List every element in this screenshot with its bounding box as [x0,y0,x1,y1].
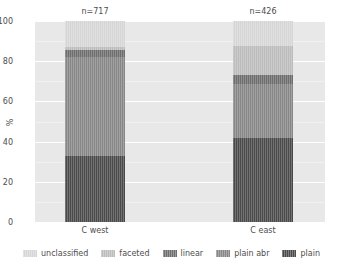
legend-item-linear[interactable]: linear [163,249,204,258]
bar-segment-plain[interactable] [233,138,293,222]
bar-c-east[interactable] [233,21,293,222]
legend-swatch [216,250,230,257]
y-tick-label: 80 [0,57,13,66]
annotation-n-east: n=426 [233,7,293,16]
x-tick-label-c-east: C east [233,226,293,235]
plot-area [35,21,325,222]
bar-segment-faceted[interactable] [65,47,125,50]
y-axis-label: % [6,119,15,127]
legend-label: plain [300,249,320,258]
bar-segment-plain-abr[interactable] [233,84,293,137]
bar-segment-unclassified[interactable] [233,21,293,46]
legend-swatch [23,250,37,257]
y-tick-label: 60 [0,97,13,106]
bar-segment-faceted[interactable] [233,46,293,75]
legend-swatch [101,250,115,257]
legend: unclassifiedfacetedlinearplain abrplain [0,246,343,260]
y-tick-label: 20 [0,177,13,186]
legend-item-faceted[interactable]: faceted [101,249,149,258]
annotation-n-west: n=717 [65,7,125,16]
y-tick-label: 100 [0,17,13,26]
bar-segment-linear[interactable] [233,75,293,84]
legend-item-plain[interactable]: plain [282,249,320,258]
legend-swatch [163,250,177,257]
bar-segment-plain[interactable] [65,156,125,222]
bar-segment-unclassified[interactable] [65,21,125,47]
legend-label: linear [181,249,204,258]
legend-item-plain-abr[interactable]: plain abr [216,249,269,258]
legend-label: unclassified [41,249,88,258]
bar-segment-linear[interactable] [65,50,125,57]
legend-item-unclassified[interactable]: unclassified [23,249,88,258]
bar-segment-plain-abr[interactable] [65,57,125,155]
legend-label: plain abr [234,249,269,258]
y-tick-label: 0 [0,218,13,227]
bar-c-west[interactable] [65,21,125,222]
y-tick-label: 40 [0,137,13,146]
legend-swatch [282,250,296,257]
stacked-bar-chart: % 020406080100 n=717 n=426 C west C east… [0,0,343,268]
legend-label: faceted [119,249,149,258]
x-tick-label-c-west: C west [65,226,125,235]
